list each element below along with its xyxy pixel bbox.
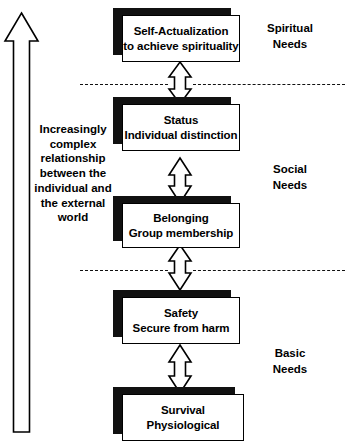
divider-social-basic-right (193, 270, 345, 271)
double-arrow-icon-4 (169, 345, 191, 393)
need-subheading: Individual distinction (125, 128, 238, 142)
category-label-social: Social Needs (252, 162, 328, 193)
category-line-2: Needs (252, 37, 328, 53)
need-heading: Status (164, 113, 199, 127)
need-box-survival[interactable]: Survival Physiological (122, 394, 244, 441)
category-line-1: Social (252, 162, 328, 178)
need-heading: Survival (161, 403, 205, 417)
need-subheading: Physiological (147, 418, 220, 432)
divider-spiritual-social-left (80, 84, 168, 85)
need-subheading: Secure from harm (133, 321, 230, 335)
divider-social-basic-left (80, 270, 168, 271)
category-line-1: Basic (252, 346, 328, 362)
progression-caption: Increasingly complex relationship betwee… (30, 122, 116, 225)
box-face: Status Individual distinction (122, 104, 240, 151)
need-heading: Self-Actualization (134, 24, 229, 38)
category-line-2: Needs (252, 178, 328, 194)
category-label-spiritual: Spiritual Needs (252, 21, 328, 52)
category-line-2: Needs (252, 362, 328, 378)
divider-spiritual-social-right (193, 84, 345, 85)
double-arrow-icon-3 (169, 245, 191, 290)
category-line-1: Spiritual (252, 21, 328, 37)
need-subheading: to achieve spirituality (123, 39, 238, 53)
need-heading: Safety (164, 306, 198, 320)
box-face: Self-Actualization to achieve spirituali… (122, 15, 240, 62)
need-box-safety[interactable]: Safety Secure from harm (122, 297, 240, 344)
box-face: Safety Secure from harm (122, 297, 240, 344)
maslow-hierarchy-diagram: Increasingly complex relationship betwee… (0, 0, 360, 447)
category-label-basic: Basic Needs (252, 346, 328, 377)
need-box-belonging[interactable]: Belonging Group membership (122, 203, 240, 248)
need-subheading: Group membership (129, 226, 233, 240)
box-face: Belonging Group membership (122, 203, 240, 248)
box-face: Survival Physiological (122, 394, 244, 441)
need-heading: Belonging (153, 211, 208, 225)
need-box-status[interactable]: Status Individual distinction (122, 104, 240, 151)
need-box-self-actualization[interactable]: Self-Actualization to achieve spirituali… (122, 15, 240, 62)
